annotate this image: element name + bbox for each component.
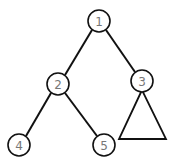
tree-diagram: 1 2 3 4 5	[0, 0, 177, 164]
node-5: 5	[93, 134, 115, 156]
edge-2-5	[65, 93, 97, 136]
node-4-label: 4	[15, 139, 23, 153]
edge-1-3	[106, 30, 135, 72]
node-1-label: 1	[95, 15, 103, 29]
node-5-label: 5	[100, 139, 108, 153]
node-3-label: 3	[138, 75, 146, 89]
node-2: 2	[47, 73, 69, 95]
node-3: 3	[131, 70, 153, 92]
node-2-label: 2	[54, 78, 62, 92]
subtree-triangle	[119, 90, 166, 139]
edge-1-2	[65, 30, 92, 75]
node-4: 4	[8, 134, 30, 156]
node-1: 1	[88, 10, 110, 32]
edge-2-4	[26, 93, 51, 136]
